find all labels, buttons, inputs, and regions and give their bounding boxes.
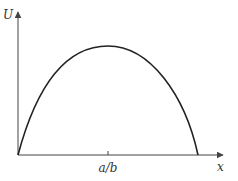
utility-curve [18,46,198,155]
tick-label: a/b [99,161,118,175]
utility-curve-diagram: U x a/b [0,0,238,181]
y-axis-label: U [3,8,14,22]
x-axis-label: x [217,160,224,174]
